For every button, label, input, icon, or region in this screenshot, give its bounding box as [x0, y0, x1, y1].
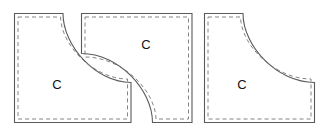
tiling-diagram: C C C [0, 0, 329, 133]
figure-container: C C C [0, 0, 329, 133]
right-piece-label: C [237, 77, 246, 92]
right-piece-outline [205, 14, 315, 123]
left-piece-label: C [52, 77, 61, 92]
middle-piece-label: C [141, 37, 150, 52]
right-piece-group: C [205, 14, 315, 123]
